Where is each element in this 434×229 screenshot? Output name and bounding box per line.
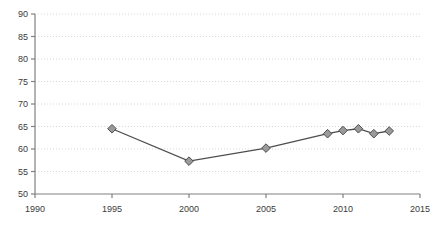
- y-tick-label: 60: [18, 144, 28, 154]
- x-tick-label: 2005: [256, 204, 276, 214]
- y-tick-label: 65: [18, 122, 28, 132]
- x-tick-label: 1990: [25, 204, 45, 214]
- y-axis-tick-labels: 505560657075808590: [18, 9, 28, 199]
- line-chart: 505560657075808590 199019952000200520102…: [0, 0, 434, 229]
- chart-canvas: 505560657075808590 199019952000200520102…: [0, 0, 434, 229]
- y-tick-label: 80: [18, 54, 28, 64]
- y-tick-label: 90: [18, 9, 28, 19]
- x-tick-label: 2015: [410, 204, 430, 214]
- y-tick-label: 75: [18, 77, 28, 87]
- chart-background: [0, 0, 434, 229]
- y-tick-label: 85: [18, 32, 28, 42]
- x-tick-label: 2000: [179, 204, 199, 214]
- y-tick-label: 55: [18, 167, 28, 177]
- x-tick-label: 2010: [333, 204, 353, 214]
- x-tick-label: 1995: [102, 204, 122, 214]
- y-tick-label: 70: [18, 99, 28, 109]
- y-tick-label: 50: [18, 189, 28, 199]
